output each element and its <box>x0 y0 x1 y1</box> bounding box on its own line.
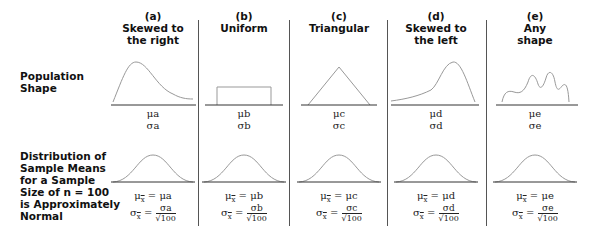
population-mean: μa <box>159 190 171 201</box>
population-mean: μd <box>391 108 481 120</box>
row-label-line: for a Sample <box>20 174 120 186</box>
equals-sign: = <box>530 190 538 201</box>
population-curve-left-skewed <box>391 52 483 108</box>
sampling-sd-formula-b: σx = σb√100 <box>199 204 289 223</box>
sampling-mean-formula-e: μx = μe <box>490 190 580 201</box>
population-params-a: μa σa <box>108 108 198 132</box>
column-title-line: the left <box>391 34 481 46</box>
equals-sign: = <box>148 190 156 201</box>
column-letter: (b) <box>199 10 289 22</box>
sigma-symbol: σ <box>221 207 228 218</box>
column-title-line: Uniform <box>199 22 289 34</box>
row-label-line: Distribution of <box>20 150 120 162</box>
column-divider <box>289 20 290 226</box>
population-mean: μe <box>541 190 553 201</box>
column-title-line: Skewed to <box>391 22 481 34</box>
fraction: σe√100 <box>538 204 558 223</box>
sampling-curve-normal-e <box>490 150 580 186</box>
equals-sign: = <box>526 207 534 218</box>
population-mean: μc <box>346 190 358 201</box>
column-title-line: Skewed to <box>108 22 198 34</box>
xbar-subscript: x <box>523 196 527 204</box>
fraction: σa√100 <box>156 204 176 223</box>
population-mean: μd <box>442 190 455 201</box>
population-sd: σa <box>108 120 198 132</box>
population-mean: μe <box>490 108 580 120</box>
population-params-c: μc σc <box>294 108 384 132</box>
column-divider <box>486 20 487 226</box>
fraction: σc√100 <box>342 204 362 223</box>
xbar-subscript: x <box>327 196 331 204</box>
equals-sign: = <box>427 207 435 218</box>
population-mean: μb <box>250 190 263 201</box>
column-header-d: (d) Skewed to the left <box>391 10 481 46</box>
column-letter: (c) <box>294 10 384 22</box>
numerator: σe <box>538 204 558 214</box>
xbar-subscript: x <box>137 213 141 221</box>
xbar-subscript: x <box>141 196 145 204</box>
mu-symbol: μ <box>320 190 327 201</box>
column-letter: (d) <box>391 10 481 22</box>
population-params-b: μb σb <box>199 108 289 132</box>
column-divider <box>387 20 388 226</box>
population-mean: μc <box>294 108 384 120</box>
sampling-mean-formula-c: μx = μc <box>294 190 384 201</box>
row-label-population-shape: Population Shape <box>20 70 84 94</box>
mu-symbol: μ <box>516 190 523 201</box>
xbar-subscript: x <box>228 213 232 221</box>
column-title-line: shape <box>490 34 580 46</box>
row-label-line: Normal <box>20 210 120 222</box>
population-mean: μb <box>199 108 289 120</box>
column-header-e: (e) Any shape <box>490 10 580 46</box>
xbar-subscript: x <box>231 196 235 204</box>
row-label-sample-means: Distribution of Sample Means for a Sampl… <box>20 150 120 222</box>
sampling-sd-formula-e: σx = σe√100 <box>490 204 580 223</box>
sigma-symbol: σ <box>316 207 323 218</box>
denominator: √100 <box>342 214 362 223</box>
denominator: √100 <box>538 214 558 223</box>
column-header-c: (c) Triangular <box>294 10 384 34</box>
sampling-mean-formula-d: μx = μd <box>391 190 481 201</box>
sampling-curve-normal-d <box>391 150 481 186</box>
fraction: σd√100 <box>439 204 459 223</box>
column-title-line: Triangular <box>294 22 384 34</box>
sampling-sd-formula-c: σx = σc√100 <box>294 204 384 223</box>
equals-sign: = <box>235 207 243 218</box>
denominator: √100 <box>156 214 176 223</box>
sigma-symbol: σ <box>413 207 420 218</box>
equals-sign: = <box>330 207 338 218</box>
column-letter: (a) <box>108 10 198 22</box>
row-label-line: Shape <box>20 82 84 94</box>
population-mean: μa <box>108 108 198 120</box>
equals-sign: = <box>431 190 439 201</box>
column-header-b: (b) Uniform <box>199 10 289 34</box>
row-label-line: is Approximately <box>20 198 120 210</box>
denominator: √100 <box>439 214 459 223</box>
population-curve-multimodal <box>490 52 580 108</box>
sampling-mean-formula-a: μx = μa <box>108 190 198 201</box>
column-header-a: (a) Skewed to the right <box>108 10 198 46</box>
population-sd: σe <box>490 120 580 132</box>
population-curve-uniform <box>199 52 289 108</box>
equals-sign: = <box>239 190 247 201</box>
population-sd: σb <box>199 120 289 132</box>
xbar-subscript: x <box>420 213 424 221</box>
numerator: σc <box>342 204 362 214</box>
xbar-subscript: x <box>519 213 523 221</box>
population-params-e: μe σe <box>490 108 580 132</box>
denominator: √100 <box>247 214 267 223</box>
sampling-curve-normal-a <box>108 150 198 186</box>
numerator: σd <box>439 204 459 214</box>
sigma-symbol: σ <box>512 207 519 218</box>
sampling-sd-formula-a: σx = σa√100 <box>108 204 198 223</box>
sigma-symbol: σ <box>130 207 137 218</box>
xbar-subscript: x <box>423 196 427 204</box>
sampling-sd-formula-d: σx = σd√100 <box>391 204 481 223</box>
column-title-line: the right <box>108 34 198 46</box>
sampling-curve-normal-c <box>294 150 384 186</box>
population-params-d: μd σd <box>391 108 481 132</box>
fraction: σb√100 <box>247 204 267 223</box>
sampling-curve-normal-b <box>199 150 289 186</box>
row-label-line: Sample Means <box>20 162 120 174</box>
row-label-line: Size of n = 100 <box>20 186 120 198</box>
